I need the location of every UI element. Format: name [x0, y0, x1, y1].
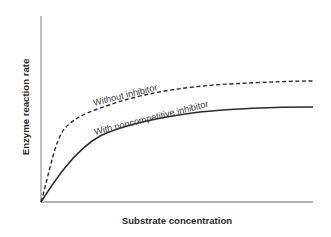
curve-with-noncompetitive-inhibitor [41, 107, 313, 202]
x-axis-label: Substrate concentration [122, 215, 232, 226]
curve-without-inhibitor [41, 81, 315, 202]
y-axis-label: Enzyme reaction rate [20, 59, 31, 156]
chart: Without inhibitor With noncompetitive in… [0, 0, 331, 237]
label-without-inhibitor: Without inhibitor [92, 82, 158, 108]
label-with-noncompetitive-inhibitor: With noncompetitive inhibitor [93, 99, 209, 137]
